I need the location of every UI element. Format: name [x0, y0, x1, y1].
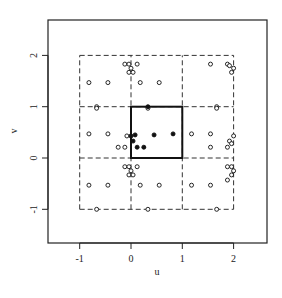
open-point	[190, 183, 194, 187]
open-point	[87, 81, 91, 85]
filled-point	[152, 133, 156, 137]
y-tick-label: 0	[28, 156, 39, 161]
x-tick-label: -1	[76, 253, 84, 264]
open-point	[209, 145, 213, 149]
open-point	[127, 62, 131, 66]
open-point	[127, 165, 131, 169]
open-point	[232, 66, 236, 70]
open-point	[225, 165, 229, 169]
open-point	[230, 173, 234, 177]
open-point	[157, 81, 161, 85]
filled-point	[129, 134, 133, 138]
open-point	[87, 132, 91, 136]
open-point	[123, 62, 127, 66]
open-point	[106, 132, 110, 136]
open-point	[209, 132, 213, 136]
open-point	[87, 183, 91, 187]
x-axis-label: u	[155, 266, 160, 277]
open-point	[230, 142, 234, 146]
open-point	[127, 173, 131, 177]
open-point	[138, 183, 142, 187]
open-point	[116, 145, 120, 149]
x-tick-label: 2	[231, 253, 236, 264]
open-point	[131, 70, 135, 74]
open-point	[106, 81, 110, 85]
y-axis-label: v	[8, 129, 19, 134]
open-point	[138, 81, 142, 85]
open-point	[95, 207, 99, 211]
open-point	[225, 178, 229, 182]
x-tick-label: 0	[129, 253, 134, 264]
open-point	[129, 169, 133, 173]
open-point	[123, 165, 127, 169]
open-point	[209, 183, 213, 187]
open-point	[225, 145, 229, 149]
open-point	[215, 106, 219, 110]
y-tick-label: -1	[28, 205, 39, 213]
x-tick-label: 1	[180, 253, 185, 264]
open-point	[129, 66, 133, 70]
open-point	[123, 145, 127, 149]
open-point	[209, 62, 213, 66]
y-tick-label: 1	[28, 104, 39, 109]
open-point	[230, 70, 234, 74]
x-axis: -1012	[76, 243, 237, 264]
open-point	[232, 169, 236, 173]
open-point	[215, 207, 219, 211]
open-point	[146, 207, 150, 211]
open-point	[135, 165, 139, 169]
open-point	[232, 134, 236, 138]
filled-point	[146, 105, 150, 109]
filled-point	[133, 133, 137, 137]
scatter-plot: -1012 -1012 u v	[0, 0, 282, 298]
open-point	[190, 132, 194, 136]
open-point	[157, 183, 161, 187]
open-points	[87, 62, 236, 211]
open-point	[125, 134, 129, 138]
open-point	[95, 106, 99, 110]
open-point	[230, 165, 234, 169]
y-tick-label: 2	[28, 53, 39, 58]
open-point	[106, 183, 110, 187]
open-point	[127, 70, 131, 74]
filled-point	[171, 132, 175, 136]
y-axis: -1012	[28, 53, 48, 214]
filled-point	[142, 145, 146, 149]
open-point	[227, 64, 231, 68]
open-point	[135, 62, 139, 66]
open-point	[131, 173, 135, 177]
filled-point	[131, 139, 135, 143]
filled-points	[129, 105, 175, 150]
filled-point	[135, 145, 139, 149]
